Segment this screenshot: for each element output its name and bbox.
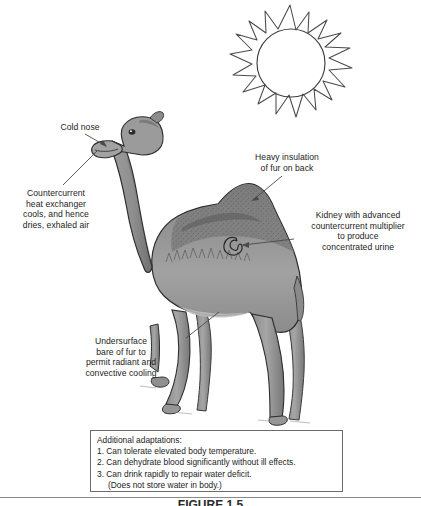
label-cold-nose: Cold nose <box>38 122 122 133</box>
list-item-sub: (Does not store water in body.) <box>97 480 342 491</box>
figure-camel-adaptations: Cold nose Countercurrent heat exchanger … <box>0 0 421 506</box>
adaptations-list: 1. Can tolerate elevated body temperatur… <box>97 446 342 491</box>
label-countercurrent-heat-exchanger: Countercurrent heat exchanger cools, and… <box>2 188 110 230</box>
sun-icon <box>230 5 352 117</box>
label-undersurface: Undersurface bare of fur to permit radia… <box>57 336 185 378</box>
list-item: 1. Can tolerate elevated body temperatur… <box>97 446 342 457</box>
adaptations-heading: Additional adaptations: <box>97 435 342 446</box>
label-heavy-insulation: Heavy insulation of fur on back <box>235 152 339 173</box>
label-kidney: Kidney with advanced countercurrent mult… <box>296 210 420 252</box>
caption-divider <box>0 497 421 498</box>
list-item: 3. Can drink rapidly to repair water def… <box>97 469 342 480</box>
list-item: 2. Can dehydrate blood significantly wit… <box>97 457 342 468</box>
additional-adaptations-box: Additional adaptations: 1. Can tolerate … <box>90 430 343 492</box>
figure-caption: FIGURE 1.5 <box>0 499 421 506</box>
